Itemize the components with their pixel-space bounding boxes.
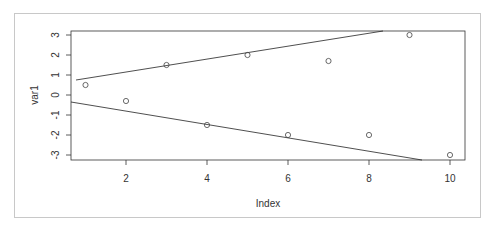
data-point (407, 32, 412, 37)
y-tick-label: -2 (50, 130, 61, 139)
y-tick-label: 1 (50, 72, 61, 78)
data-point (123, 98, 128, 103)
x-tick-label: 6 (285, 173, 291, 184)
scatter-plot: 3 2 1 0 -1 -2 -3 2 4 6 8 10 Index var1 (0, 0, 495, 231)
data-point (245, 52, 250, 57)
x-tick-label: 10 (444, 173, 456, 184)
y-axis (66, 35, 71, 155)
data-point (285, 132, 290, 137)
data-point (447, 152, 452, 157)
y-tick-labels: 3 2 1 0 -1 -2 -3 (50, 32, 61, 160)
x-axis-title: Index (256, 198, 280, 209)
lower-bound-line (71, 102, 422, 160)
data-point (83, 82, 88, 87)
data-point (366, 132, 371, 137)
x-tick-label: 2 (123, 173, 129, 184)
x-tick-label: 4 (204, 173, 210, 184)
y-tick-label: 3 (50, 32, 61, 38)
x-axis (126, 160, 450, 165)
y-tick-label: 2 (50, 52, 61, 58)
x-tick-label: 8 (366, 173, 372, 184)
y-tick-label: 0 (50, 92, 61, 98)
x-tick-labels: 2 4 6 8 10 (123, 173, 456, 184)
data-points (83, 32, 453, 157)
data-point (326, 58, 331, 63)
upper-bound-line (76, 31, 383, 80)
y-tick-label: -3 (50, 150, 61, 159)
plot-area (71, 31, 465, 160)
y-tick-label: -1 (50, 110, 61, 119)
y-axis-title: var1 (29, 85, 40, 105)
